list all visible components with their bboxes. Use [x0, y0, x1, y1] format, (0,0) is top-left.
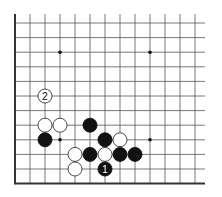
black-stone [128, 147, 142, 161]
black-stone-icon [128, 147, 142, 161]
white-stone [38, 118, 52, 132]
go-board-diagram: 21 [0, 0, 222, 197]
black-stone [38, 133, 52, 147]
move-number-label: 1 [102, 163, 108, 175]
white-stone-icon [53, 118, 67, 132]
white-stone [68, 147, 82, 161]
move-number-label: 2 [42, 90, 48, 102]
white-stone: 2 [38, 89, 52, 103]
black-stone-icon [98, 133, 112, 147]
star-point-icon [58, 138, 62, 142]
black-stone-icon [113, 147, 127, 161]
white-stone [113, 133, 127, 147]
star-point-icon [148, 138, 152, 142]
black-stone-icon [38, 133, 52, 147]
white-stone-icon [68, 162, 82, 176]
black-stone [83, 147, 97, 161]
white-stone [68, 162, 82, 176]
white-stone-icon [38, 118, 52, 132]
white-stone [98, 147, 112, 161]
white-stone-icon [68, 147, 82, 161]
black-stone [83, 118, 97, 132]
star-point-icon [58, 50, 62, 54]
black-stone-icon [83, 147, 97, 161]
black-stone-icon [83, 118, 97, 132]
white-stone [53, 118, 67, 132]
black-stone [113, 147, 127, 161]
star-point-icon [148, 50, 152, 54]
black-stone: 1 [98, 162, 112, 176]
black-stone [98, 133, 112, 147]
white-stone-icon [98, 147, 112, 161]
white-stone-icon [113, 133, 127, 147]
